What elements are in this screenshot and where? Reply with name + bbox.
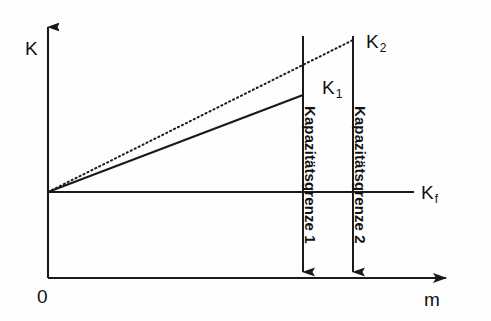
curve-label-kf-base: K [421, 182, 434, 203]
curve-label-kf: Kf [421, 183, 438, 205]
curve-label-k2-subscript: 2 [379, 41, 387, 55]
curve-label-k1: K1 [322, 78, 342, 100]
x-axis-label: m [424, 290, 440, 309]
capacity-limit-label-1: Kapazitätsgrenze 1 [303, 106, 318, 244]
capacity-limit-label-2: Kapazitätsgrenze 2 [353, 106, 368, 244]
curve-label-kf-subscript: f [434, 192, 438, 206]
diagram-vector-layer [0, 0, 491, 321]
diagram-canvas: K m 0 K2 K1 Kf Kapazitätsgrenze 1 Kapazi… [0, 0, 491, 321]
origin-label: 0 [37, 287, 48, 306]
curve-label-k1-subscript: 1 [335, 87, 343, 101]
cost-line-k1-solid [48, 95, 303, 192]
curve-label-k1-base: K [322, 77, 335, 98]
curve-label-k2: K2 [366, 32, 386, 54]
curve-label-k2-base: K [366, 31, 379, 52]
y-axis-label: K [25, 39, 38, 58]
